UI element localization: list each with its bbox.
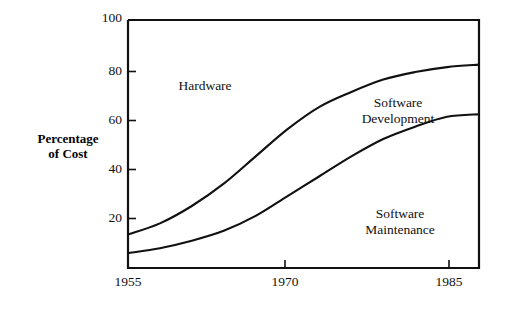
annotation-software-development-line-2: Development bbox=[348, 111, 448, 127]
y-tick-marks bbox=[128, 72, 136, 219]
y-tick-label-80: 80 bbox=[92, 64, 122, 78]
y-tick-label-100: 100 bbox=[92, 11, 122, 25]
annotation-hardware: Hardware bbox=[155, 78, 255, 94]
annotation-software-maintenance: Software Maintenance bbox=[346, 206, 454, 238]
y-tick-label-40: 40 bbox=[92, 162, 122, 176]
annotation-hardware-line-1: Hardware bbox=[155, 78, 255, 94]
y-axis-title: Percentage of Cost bbox=[18, 131, 118, 162]
x-tick-label-1970: 1970 bbox=[255, 275, 315, 289]
x-tick-label-1955: 1955 bbox=[98, 275, 158, 289]
x-tick-label-1985: 1985 bbox=[419, 275, 479, 289]
annotation-software-maintenance-line-2: Maintenance bbox=[346, 222, 454, 238]
annotation-software-maintenance-line-1: Software bbox=[346, 206, 454, 222]
y-axis-title-line-1: Percentage bbox=[18, 131, 118, 146]
y-tick-label-60: 60 bbox=[92, 113, 122, 127]
y-tick-label-20: 20 bbox=[92, 211, 122, 225]
y-axis-title-line-2: of Cost bbox=[18, 146, 118, 161]
annotation-software-development-line-1: Software bbox=[348, 95, 448, 111]
x-tick-marks bbox=[285, 260, 449, 268]
annotation-software-development: Software Development bbox=[348, 95, 448, 127]
chart-figure: Percentage of Cost 100 80 60 40 20 1955 … bbox=[0, 0, 507, 313]
